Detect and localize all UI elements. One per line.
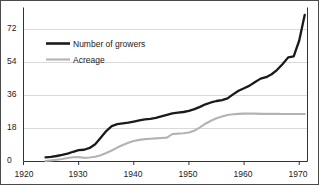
y-tick-label-54: 54 — [7, 57, 16, 66]
x-tick-marks-group — [24, 162, 300, 166]
legend-label-number-of-growers: Number of growers — [73, 39, 145, 49]
chart-figure: 72 54 36 18 0 1920 1930 1940 1950 1960 1… — [0, 0, 319, 185]
series-number-of-growers — [46, 15, 305, 158]
legend-label-acreage: Acreage — [73, 55, 105, 65]
x-tick-label-1930: 1930 — [62, 170, 94, 179]
x-tick-label-1960: 1960 — [227, 170, 259, 179]
y-tick-label-18: 18 — [7, 123, 16, 132]
legend-swatches — [46, 44, 70, 60]
x-tick-label-1950: 1950 — [172, 170, 204, 179]
x-tick-label-1970: 1970 — [282, 170, 314, 179]
x-tick-label-1920: 1920 — [8, 170, 40, 179]
x-tick-label-1940: 1940 — [117, 170, 149, 179]
series-line-number-of-growers — [46, 15, 305, 158]
series-acreage — [46, 114, 305, 161]
plot-area — [0, 0, 319, 185]
y-tick-label-0: 0 — [7, 156, 12, 165]
line-chart-canvas — [0, 0, 319, 185]
series-line-acreage — [46, 114, 305, 161]
y-tick-label-72: 72 — [7, 24, 16, 33]
y-tick-label-36: 36 — [7, 90, 16, 99]
